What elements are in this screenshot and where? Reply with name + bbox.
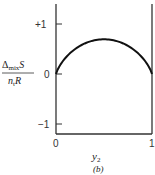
xlabel: y2 <box>91 150 101 164</box>
panel-label: (b) <box>93 164 104 174</box>
entropy-curve <box>56 39 152 74</box>
ytick-label-minus1: −1 <box>38 119 50 130</box>
ylabel-numerator: ΔmixS <box>2 59 24 72</box>
xtick-label-1: 1 <box>149 138 155 149</box>
xtick-label-0: 0 <box>53 138 59 149</box>
ytick-label-plus1: +1 <box>35 19 47 30</box>
ylabel-denominator: ntR <box>8 75 21 88</box>
ytick-label-0: 0 <box>44 69 50 80</box>
chart: +1 0 −1 0 1 ΔmixS ntR y2 (b) <box>0 0 155 175</box>
